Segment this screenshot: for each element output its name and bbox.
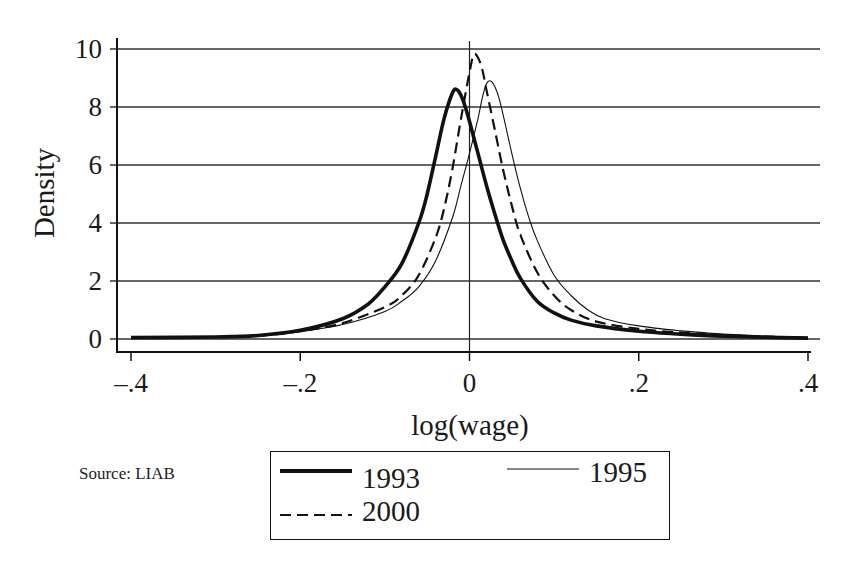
legend-label-1995: 1995 <box>589 458 647 487</box>
y-tick-label: 0 <box>89 324 103 354</box>
y-axis-title: Density <box>28 147 60 238</box>
legend: 1993 1995 2000 <box>270 451 670 540</box>
y-tick-label: 4 <box>89 208 103 238</box>
x-axis-title: log(wage) <box>411 409 529 442</box>
y-tick-label: 8 <box>89 92 103 122</box>
x-tick-label: .2 <box>629 368 649 398</box>
legend-label-1993: 1993 <box>362 464 420 493</box>
x-tick-label: 0 <box>463 368 477 398</box>
legend-swatch-1995 <box>507 466 579 472</box>
axes <box>116 38 811 361</box>
y-tick-label: 6 <box>89 150 103 180</box>
legend-swatch-1993 <box>280 467 352 475</box>
legend-label-2000: 2000 <box>362 497 420 526</box>
legend-swatch-2000 <box>280 512 352 518</box>
source-note: Source: LIAB <box>79 464 175 484</box>
y-tick-label: 2 <box>89 266 103 296</box>
tick-labels: 0246810–.4–.20.2.4 <box>75 34 819 398</box>
y-tick-label: 10 <box>75 34 102 64</box>
x-tick-label: –.2 <box>282 368 317 398</box>
gridlines <box>110 41 820 352</box>
x-tick-label: .4 <box>798 368 819 398</box>
x-tick-label: –.4 <box>113 368 148 398</box>
